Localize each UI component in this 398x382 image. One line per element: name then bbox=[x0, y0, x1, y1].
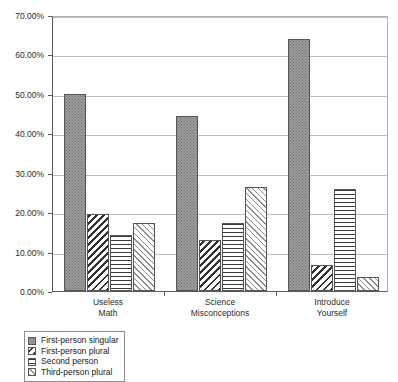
bar-group bbox=[53, 17, 165, 291]
bar bbox=[311, 265, 333, 291]
y-axis-tick-label: 20.00% bbox=[0, 209, 44, 218]
bar bbox=[222, 223, 244, 291]
legend-swatch-icon bbox=[28, 337, 36, 345]
legend-swatch-icon bbox=[28, 347, 36, 355]
x-axis-label-line: Science bbox=[164, 297, 276, 308]
x-axis-label-line: Introduce bbox=[276, 297, 388, 308]
x-axis-tick-mark bbox=[276, 292, 277, 296]
bar-group bbox=[277, 17, 389, 291]
bar bbox=[110, 235, 132, 291]
legend-item[interactable]: Third-person plural bbox=[28, 367, 118, 377]
x-axis-label-line: Useless bbox=[52, 297, 164, 308]
y-axis-tick-label: 60.00% bbox=[0, 51, 44, 60]
bar bbox=[87, 214, 109, 291]
legend-label: First-person plural bbox=[41, 347, 110, 356]
y-axis-tick-label: 40.00% bbox=[0, 130, 44, 139]
bar bbox=[64, 94, 86, 291]
bar-group bbox=[165, 17, 277, 291]
legend-label: Third-person plural bbox=[41, 368, 112, 377]
y-axis-tick-mark bbox=[48, 292, 52, 293]
bar bbox=[133, 223, 155, 291]
x-axis-category-label: UselessMath bbox=[52, 297, 164, 319]
y-axis-tick-label: 50.00% bbox=[0, 91, 44, 100]
x-axis-category-label: IntroduceYourself bbox=[276, 297, 388, 319]
legend-swatch-icon bbox=[28, 358, 36, 366]
chart-legend: First-person singularFirst-person plural… bbox=[24, 331, 125, 382]
x-axis-label-line: Misconceptions bbox=[164, 308, 276, 319]
bar bbox=[176, 116, 198, 291]
legend-label: Second person bbox=[41, 357, 98, 366]
bar bbox=[199, 240, 221, 291]
legend-item[interactable]: Second person bbox=[28, 357, 118, 367]
x-axis-category-label: ScienceMisconceptions bbox=[164, 297, 276, 319]
legend-item[interactable]: First-person plural bbox=[28, 346, 118, 356]
x-axis-label-line: Yourself bbox=[276, 308, 388, 319]
x-axis-tick-mark bbox=[164, 292, 165, 296]
bar bbox=[334, 189, 356, 292]
y-axis-tick-label: 70.00% bbox=[0, 12, 44, 21]
bar bbox=[357, 277, 379, 291]
y-axis-tick-label: 0.00% bbox=[0, 288, 44, 297]
legend-item[interactable]: First-person singular bbox=[28, 336, 118, 346]
plot-area bbox=[52, 16, 388, 292]
y-axis-tick-label: 30.00% bbox=[0, 170, 44, 179]
bar bbox=[288, 39, 310, 291]
y-axis-tick-label: 10.00% bbox=[0, 249, 44, 258]
x-axis-label-line: Math bbox=[52, 308, 164, 319]
bar bbox=[245, 187, 267, 291]
legend-swatch-icon bbox=[28, 368, 36, 376]
legend-label: First-person singular bbox=[41, 336, 118, 345]
